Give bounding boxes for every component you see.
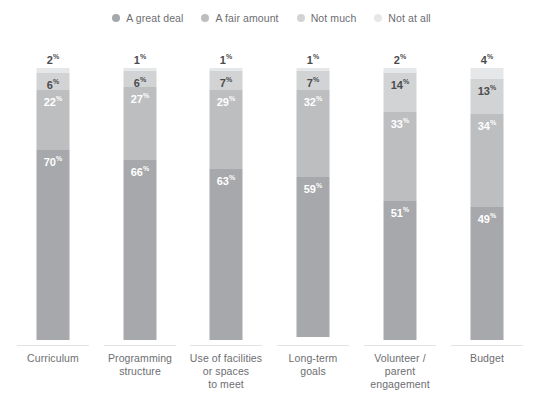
percent-sign: % <box>403 206 409 213</box>
percent-sign: % <box>143 165 149 172</box>
category-axis-label-line: parent <box>354 365 446 378</box>
bar-segment[interactable] <box>471 68 504 79</box>
bar-segment[interactable]: 6% <box>124 71 157 87</box>
axis-divider <box>17 345 89 346</box>
stacked-bar[interactable]: 7%32%59% <box>297 68 330 340</box>
percent-sign: % <box>140 53 146 60</box>
category-axis-label-line: Budget <box>441 352 533 365</box>
bar-segment-value-outside: 2% <box>394 53 406 66</box>
stacked-bar[interactable]: 6%22%70% <box>37 68 70 340</box>
bar-segment-value: 7% <box>307 71 319 89</box>
percent-sign: % <box>316 182 322 189</box>
axis-divider <box>451 345 523 346</box>
category-axis-label: Budget <box>441 352 533 365</box>
bar-segment[interactable]: 33% <box>384 112 417 202</box>
chart-column: 13%34%49%4%Budget <box>441 0 533 410</box>
percent-sign: % <box>226 53 232 60</box>
category-axis-label-line: Long-term <box>267 352 359 365</box>
bar-segment[interactable]: 63% <box>210 169 243 340</box>
stacked-bar[interactable]: 13%34%49% <box>471 68 504 340</box>
percent-sign: % <box>490 212 496 219</box>
stacked-bar[interactable]: 6%27%66% <box>124 68 157 340</box>
category-axis-label-line: Programming <box>94 352 186 365</box>
bar-segment-value: 7% <box>220 71 232 89</box>
bar-segment[interactable]: 59% <box>297 177 330 337</box>
category-axis-label-line: or spaces <box>180 365 272 378</box>
bar-segment[interactable]: 22% <box>37 90 70 150</box>
bar-segment-value: 70% <box>44 150 62 168</box>
percent-sign: % <box>53 53 59 60</box>
axis-divider <box>364 345 436 346</box>
percent-sign: % <box>316 95 322 102</box>
percent-sign: % <box>400 53 406 60</box>
bar-segment-value: 14% <box>391 73 409 91</box>
percent-sign: % <box>487 53 493 60</box>
category-axis-label-line: Curriculum <box>7 352 99 365</box>
chart-column: 6%27%66%1%Programmingstructure <box>94 0 186 410</box>
category-axis-label-line: Use of facilities <box>180 352 272 365</box>
bar-segment[interactable]: 13% <box>471 79 504 114</box>
bar-segment[interactable]: 14% <box>384 73 417 111</box>
percent-sign: % <box>403 117 409 124</box>
bar-segment[interactable]: 6% <box>37 73 70 89</box>
bar-segment[interactable]: 32% <box>297 90 330 177</box>
bar-segment[interactable]: 51% <box>384 201 417 340</box>
bar-segment-value: 34% <box>478 114 496 132</box>
bar-segment-value: 13% <box>478 79 496 97</box>
percent-sign: % <box>56 155 62 162</box>
percent-sign: % <box>140 76 146 83</box>
percent-sign: % <box>226 76 232 83</box>
bar-segment-value: 49% <box>478 207 496 225</box>
percent-sign: % <box>56 95 62 102</box>
category-axis-label: Use of facilitiesor spacesto meet <box>180 352 272 391</box>
category-axis-label-line: Volunteer / <box>354 352 446 365</box>
bar-segment-value-outside: 1% <box>134 53 146 66</box>
bar-segment-value: 63% <box>217 169 235 187</box>
bar-segment-value: 6% <box>47 73 59 91</box>
bar-segment[interactable]: 34% <box>471 114 504 206</box>
bar-segment-value-outside: 4% <box>481 53 493 66</box>
stacked-bar[interactable]: 7%29%63% <box>210 68 243 340</box>
bar-segment-value: 29% <box>217 90 235 108</box>
stacked-bar[interactable]: 14%33%51% <box>384 68 417 340</box>
percent-sign: % <box>143 92 149 99</box>
percent-sign: % <box>313 76 319 83</box>
category-axis-label-line: engagement <box>354 378 446 391</box>
bar-segment[interactable]: 27% <box>124 87 157 160</box>
category-axis-label: Curriculum <box>7 352 99 365</box>
category-axis-label: Long-termgoals <box>267 352 359 378</box>
axis-divider <box>104 345 176 346</box>
bar-segment-value-outside: 2% <box>47 53 59 66</box>
bar-segment-value: 66% <box>131 160 149 178</box>
category-axis-label-line: structure <box>94 365 186 378</box>
percent-sign: % <box>229 95 235 102</box>
bar-segment[interactable]: 7% <box>210 71 243 90</box>
percent-sign: % <box>490 84 496 91</box>
percent-sign: % <box>229 174 235 181</box>
axis-divider <box>277 345 349 346</box>
bar-segment-value-outside: 1% <box>307 53 319 66</box>
bar-segment[interactable]: 66% <box>124 160 157 340</box>
bar-segment[interactable]: 29% <box>210 90 243 169</box>
chart-column: 14%33%51%2%Volunteer /parentengagement <box>354 0 446 410</box>
category-axis-label-line: to meet <box>180 378 272 391</box>
bar-segment-value: 32% <box>304 90 322 108</box>
stacked-bar-chart: 6%22%70%2%Curriculum6%27%66%1%Programmin… <box>0 0 543 410</box>
percent-sign: % <box>490 119 496 126</box>
bar-segment-value-outside: 1% <box>220 53 232 66</box>
percent-sign: % <box>313 53 319 60</box>
bar-segment-value: 51% <box>391 201 409 219</box>
bar-segment-value: 6% <box>134 71 146 89</box>
percent-sign: % <box>53 78 59 85</box>
bar-segment[interactable]: 70% <box>37 150 70 340</box>
category-axis-label: Volunteer /parentengagement <box>354 352 446 391</box>
bar-segment[interactable]: 49% <box>471 207 504 340</box>
bar-segment[interactable]: 7% <box>297 71 330 90</box>
category-axis-label-line: goals <box>267 365 359 378</box>
axis-divider <box>190 345 262 346</box>
chart-column: 6%22%70%2%Curriculum <box>7 0 99 410</box>
chart-column: 7%29%63%1%Use of facilitiesor spacesto m… <box>180 0 272 410</box>
bar-segment-value: 33% <box>391 112 409 130</box>
bar-segment-value: 22% <box>44 90 62 108</box>
chart-column: 7%32%59%1%Long-termgoals <box>267 0 359 410</box>
